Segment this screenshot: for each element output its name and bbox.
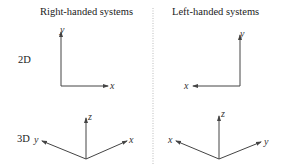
left-handed-2d-axes [193,35,240,86]
lh3d-x-label: x [167,134,173,145]
right-handed-3d-axes [42,118,127,159]
rh3d-z-label: z [87,111,92,122]
rh2d-y-label: y [59,24,65,35]
rh2d-x-label: x [109,80,115,91]
lh3d-y-label: y [263,136,269,147]
lh3d-z-label: z [220,108,225,119]
coordinate-diagram: y x y x z y x z x y [0,0,281,167]
rh3d-x-label: x [128,134,134,145]
right-handed-2d-axes [61,32,108,86]
left-handed-3d-axes [176,116,261,159]
lh2d-x-label: x [183,80,189,91]
lh2d-y-label: y [239,28,245,39]
rh3d-y-label: y [33,134,39,145]
